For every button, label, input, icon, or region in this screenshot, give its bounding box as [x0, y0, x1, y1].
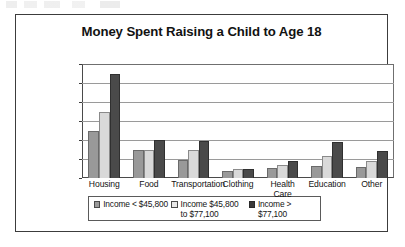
bar: [288, 161, 299, 178]
bar-group: [171, 64, 216, 178]
y-axis-tick-mark: [79, 121, 83, 122]
bar-group: [82, 64, 127, 178]
bar: [322, 156, 333, 178]
y-axis-tick-mark: [79, 102, 83, 103]
bar: [144, 150, 155, 179]
bar: [243, 169, 254, 178]
legend-swatch-icon: [249, 201, 255, 207]
plot-wrap: [82, 64, 394, 178]
legend-label: Income $45,800 to $77,100: [181, 200, 239, 219]
chart-frame: Money Spent Raising a Child to Age 18 In…: [15, 14, 388, 232]
y-axis-tick-mark: [79, 64, 83, 65]
x-axis-tick-label: Other: [349, 180, 394, 190]
bar: [178, 160, 189, 178]
y-axis-tick-mark: [79, 178, 83, 179]
bar: [267, 168, 278, 178]
chart-title: Money Spent Raising a Child to Age 18: [16, 24, 387, 39]
bar: [199, 141, 210, 178]
chart-legend: Income < $45,800Income $45,800 to $77,10…: [88, 196, 321, 221]
bar: [356, 167, 367, 178]
bar: [99, 112, 110, 179]
legend-swatch-icon: [171, 201, 177, 207]
legend-item: Income > $77,100: [249, 200, 315, 219]
x-axis-tick-label: Housing: [82, 180, 127, 190]
bar: [222, 171, 233, 178]
bar: [332, 142, 343, 178]
x-axis-tick-label: Food: [127, 180, 172, 190]
legend-swatch-icon: [94, 201, 100, 207]
bar: [366, 161, 377, 178]
bar: [154, 140, 165, 178]
bar-group: [305, 64, 350, 178]
bar: [311, 166, 322, 178]
legend-item: Income $45,800 to $77,100: [171, 200, 248, 219]
x-axis-tick-label: Clothing: [216, 180, 261, 190]
bar: [133, 150, 144, 179]
legend-label: Income > $77,100: [258, 200, 315, 219]
bar: [377, 151, 388, 178]
y-axis-tick-mark: [79, 159, 83, 160]
bar: [233, 169, 244, 178]
scan-artifact: [6, 1, 126, 8]
x-axis-tick-label: Education: [305, 180, 350, 190]
x-axis-tick-label: Health Care: [260, 180, 305, 199]
legend-label: Income < $45,800: [103, 200, 168, 209]
x-axis-tick-label: Transportation: [171, 180, 216, 190]
y-axis-tick-mark: [79, 140, 83, 141]
bar: [110, 74, 121, 179]
bar-group: [349, 64, 394, 178]
bar-group: [127, 64, 172, 178]
bar-group: [260, 64, 305, 178]
bar: [88, 131, 99, 179]
legend-item: Income < $45,800: [94, 200, 171, 209]
bar: [277, 165, 288, 178]
y-axis-tick-mark: [79, 83, 83, 84]
bar-group: [216, 64, 261, 178]
bar: [188, 150, 199, 178]
